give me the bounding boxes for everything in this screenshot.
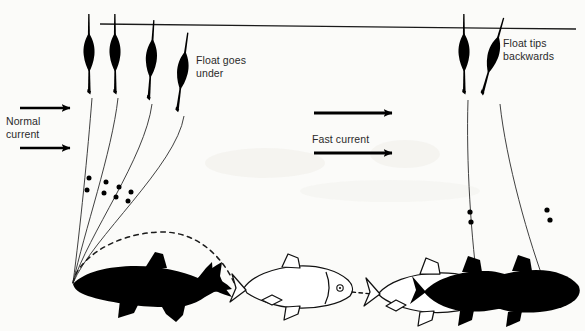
float-2-upright	[109, 14, 120, 95]
float-4-submerged	[171, 32, 193, 113]
fish-left-black	[73, 252, 232, 322]
shot-dot	[102, 191, 107, 196]
fish-dorsal-fin	[420, 258, 440, 274]
fish-anal-fin	[458, 310, 474, 326]
fish-body	[244, 266, 352, 308]
shot-dot	[129, 190, 134, 195]
fish-dorsal-fin	[145, 252, 167, 268]
fish-anal-fin	[418, 311, 434, 326]
fish-pupil	[339, 287, 341, 289]
shot-dot	[544, 207, 549, 212]
shot-dot	[104, 180, 109, 185]
waterline-group	[100, 24, 576, 29]
left-shot-weights	[85, 176, 134, 204]
float-3-sinking	[143, 20, 160, 101]
label-fast-current: Fast current	[312, 133, 369, 146]
fish-anal-fin	[284, 306, 300, 320]
shot-dot	[126, 199, 131, 204]
waterline	[100, 24, 576, 29]
label-float-goes-under: Float goes under	[196, 54, 246, 80]
left-rig-lines	[73, 98, 184, 283]
fish-anal-fin	[506, 311, 522, 327]
fish-dorsal-fin	[462, 256, 482, 272]
shot-dot	[117, 185, 122, 190]
float-5-upright	[458, 14, 469, 95]
shot-dot	[85, 188, 90, 193]
float-1-upright	[83, 14, 94, 95]
fish-dorsal-fin	[512, 255, 532, 271]
fishing-float-diagram: Float goes under Float tips backwards No…	[0, 0, 585, 331]
left-floats	[83, 14, 193, 113]
shot-dot	[547, 217, 552, 222]
diagram-canvas	[0, 0, 585, 331]
label-normal-current: Normal current	[6, 115, 40, 141]
shot-dot	[467, 209, 472, 214]
fish-pelvic-fin	[118, 300, 139, 318]
fish-middle-outline	[230, 254, 352, 320]
right-shot-weights	[467, 207, 552, 224]
fish-tail	[364, 278, 380, 306]
label-float-tips-backwards: Float tips backwards	[503, 37, 554, 63]
right-floats	[458, 14, 509, 97]
shot-dot	[114, 195, 119, 200]
shot-dot	[468, 219, 473, 224]
shot-dot	[87, 176, 92, 181]
line-2	[73, 98, 118, 283]
fish-dorsal-fin	[282, 254, 300, 268]
